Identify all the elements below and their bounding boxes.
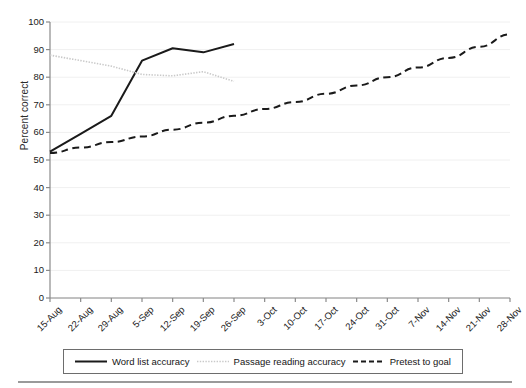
x-axis-tick-labels: 15-Aug22-Aug29-Aug5-Sep12-Sep19-Sep26-Se…	[0, 0, 526, 388]
legend-label: Pretest to goal	[390, 356, 451, 367]
legend-label: Word list accuracy	[112, 356, 189, 367]
line-chart: Percent correct 1009080706050403020100 1…	[0, 0, 526, 388]
solid-line-swatch	[75, 357, 107, 366]
legend-item-2[interactable]: Pretest to goal	[353, 356, 451, 367]
chart-legend: Word list accuracyPassage reading accura…	[63, 349, 463, 374]
legend-label: Passage reading accuracy	[234, 356, 346, 367]
legend-item-1[interactable]: Passage reading accuracy	[197, 356, 346, 367]
bottom-divider	[18, 381, 512, 383]
dashed-line-swatch	[353, 357, 385, 366]
legend-item-0[interactable]: Word list accuracy	[75, 356, 189, 367]
dotted-line-swatch	[197, 357, 229, 366]
